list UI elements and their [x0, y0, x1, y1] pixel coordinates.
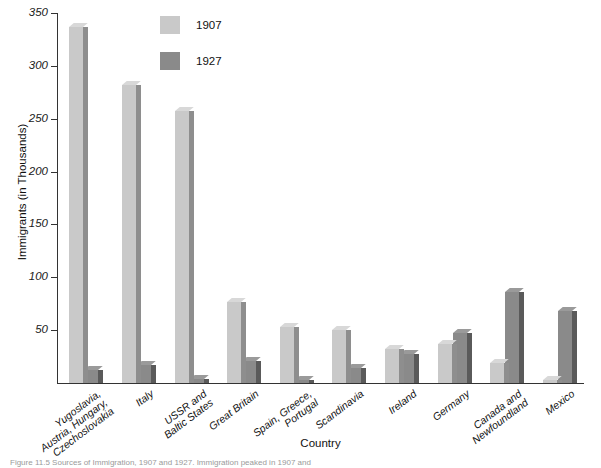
- bar-1927-10: [558, 311, 572, 383]
- y-axis-tick-label: 150: [6, 218, 48, 230]
- legend: 1907 1927: [160, 14, 290, 86]
- bar-face: [438, 344, 452, 383]
- bar-group: [69, 13, 103, 383]
- bar-side: [414, 354, 419, 383]
- bar-face: [385, 349, 399, 383]
- bar-side: [294, 327, 299, 383]
- bar-group: [122, 13, 156, 383]
- bar-side: [241, 302, 246, 383]
- legend-item-1927: 1927: [160, 50, 290, 72]
- bar-side: [98, 370, 103, 383]
- y-axis-tick-label: 350: [6, 7, 48, 19]
- bar-group: [385, 13, 419, 383]
- y-axis-tick-label: 250: [6, 113, 48, 125]
- bar-face: [543, 380, 557, 383]
- x-axis-title: Country: [57, 437, 584, 449]
- legend-label-1927: 1927: [196, 55, 222, 67]
- bar-1907-4: [227, 302, 241, 383]
- legend-swatch-1907: [160, 16, 180, 34]
- y-axis-tick-label: 100: [6, 271, 48, 283]
- bar-side: [83, 27, 88, 383]
- bar-1907-7: [385, 349, 399, 383]
- bar-1907-8: [438, 344, 452, 383]
- bar-side: [399, 349, 404, 383]
- bar-side: [467, 333, 472, 383]
- bar-side: [572, 311, 577, 383]
- bar-side: [136, 85, 141, 383]
- plot-area: [58, 13, 584, 383]
- bar-face: [122, 85, 136, 383]
- y-axis-tick: [51, 66, 57, 67]
- bar-1907-9: [490, 363, 504, 383]
- bar-side: [452, 344, 457, 383]
- bar-side: [361, 368, 366, 383]
- figure-caption: Figure 11.5 Sources of Immigration, 1907…: [10, 458, 595, 468]
- bar-side: [256, 361, 261, 383]
- bar-1907-2: [122, 85, 136, 383]
- bar-face: [558, 311, 572, 383]
- y-axis-tick: [51, 172, 57, 173]
- bar-1907-1: [69, 27, 83, 383]
- bar-face: [280, 327, 294, 383]
- bar-group: [490, 13, 524, 383]
- bar-face: [69, 27, 83, 383]
- figure-immigration-bar-chart: Immigrants (in Thousands) 50100150200250…: [0, 0, 601, 468]
- y-axis-tick: [51, 119, 57, 120]
- y-axis-tick: [51, 13, 57, 14]
- bar-face: [332, 330, 346, 383]
- legend-item-1907: 1907: [160, 14, 290, 36]
- bar-1907-5: [280, 327, 294, 383]
- bar-1907-6: [332, 330, 346, 383]
- y-axis-tick: [51, 224, 57, 225]
- x-axis-line: [57, 383, 584, 384]
- bar-face: [490, 363, 504, 383]
- bar-side: [151, 365, 156, 383]
- bar-face: [175, 111, 189, 383]
- bar-face: [227, 302, 241, 383]
- bar-group: [543, 13, 577, 383]
- bar-side: [309, 380, 314, 383]
- bar-group: [332, 13, 366, 383]
- y-axis-tick-label: 200: [6, 166, 48, 178]
- bar-1907-10: [543, 380, 557, 383]
- bar-1907-3: [175, 111, 189, 383]
- bar-side: [519, 292, 524, 383]
- bar-side: [346, 330, 351, 383]
- bar-side: [557, 380, 562, 383]
- y-axis-tick: [51, 277, 57, 278]
- bar-group: [438, 13, 472, 383]
- legend-swatch-1927: [160, 52, 180, 70]
- bar-side: [189, 111, 194, 383]
- y-axis-tick-label: 300: [6, 60, 48, 72]
- legend-label-1907: 1907: [196, 19, 222, 31]
- y-axis-tick: [51, 330, 57, 331]
- bar-side: [204, 379, 209, 383]
- bar-side: [504, 363, 509, 383]
- y-axis-tick-label: 50: [6, 324, 48, 336]
